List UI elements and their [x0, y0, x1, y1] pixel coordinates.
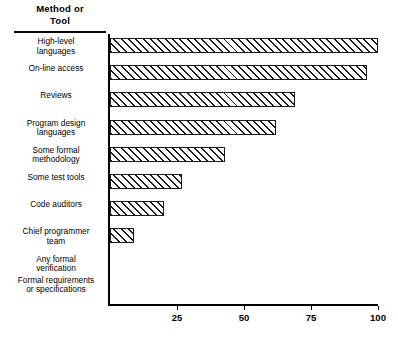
bar	[110, 174, 182, 189]
category-label: Chief programmer team	[6, 227, 106, 246]
category-label: Some formal methodology	[6, 146, 106, 165]
bar	[110, 38, 378, 53]
x-axis-tick-label: 25	[172, 312, 183, 323]
x-axis-tick-label: 50	[239, 312, 250, 323]
x-axis-tick-label: 100	[370, 312, 386, 323]
category-label: Program design languages	[6, 119, 106, 138]
category-label: Formal requirements or specifications	[6, 276, 106, 295]
x-axis-tick	[311, 306, 312, 310]
x-axis-tick-label: 75	[306, 312, 317, 323]
bar	[110, 65, 367, 80]
header-divider	[14, 31, 106, 33]
bar	[110, 92, 295, 107]
category-label: On-line access	[6, 64, 106, 74]
bar	[110, 120, 276, 135]
bar-chart: Method or Tool High-level languagesOn-li…	[0, 0, 398, 357]
category-label: Any formal verification	[6, 255, 106, 274]
category-column-header-line2: Tool	[14, 15, 106, 27]
category-label: Some test tools	[6, 173, 106, 183]
category-label: Code auditors	[6, 200, 106, 210]
category-label: High-level languages	[6, 37, 106, 56]
x-axis-tick	[244, 306, 245, 310]
bar	[110, 201, 164, 216]
x-axis-line	[108, 304, 378, 306]
category-column-header-line1: Method or	[14, 3, 106, 15]
category-label: Reviews	[6, 91, 106, 101]
bar	[110, 147, 225, 162]
x-axis-tick	[378, 306, 379, 310]
x-axis-tick	[177, 306, 178, 310]
category-column-header: Method or Tool	[14, 3, 106, 26]
bar	[110, 228, 134, 243]
